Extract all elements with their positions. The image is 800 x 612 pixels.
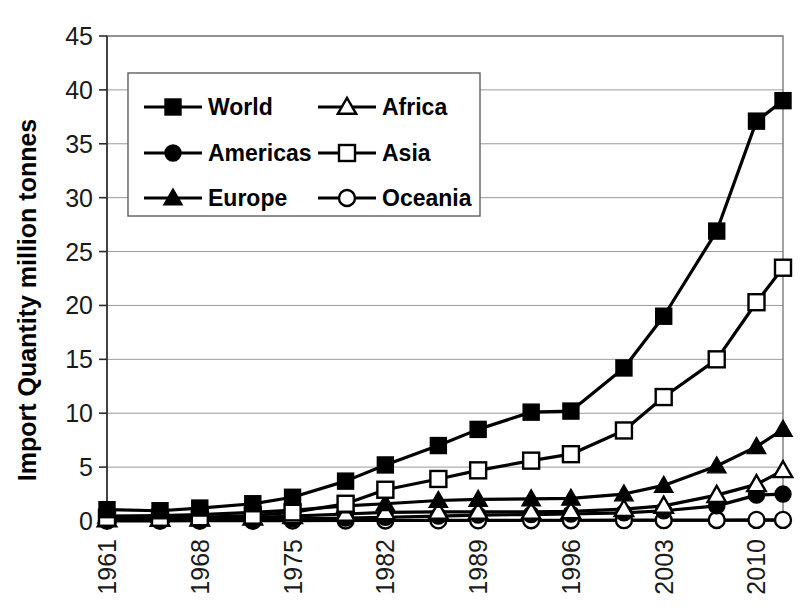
marker-world bbox=[192, 500, 208, 516]
marker-asia bbox=[563, 446, 579, 462]
marker-world bbox=[245, 496, 261, 512]
marker-world bbox=[470, 421, 486, 437]
legend-marker-world bbox=[165, 99, 181, 115]
x-tick-label: 1968 bbox=[186, 539, 214, 595]
marker-oceania bbox=[775, 512, 791, 528]
marker-world bbox=[338, 473, 354, 489]
legend-label-africa: Africa bbox=[382, 94, 447, 120]
chart-container: 051015202530354045 196119681975198219891… bbox=[0, 0, 800, 612]
legend-label-europe: Europe bbox=[208, 185, 287, 211]
x-tick-label: 1996 bbox=[557, 539, 585, 595]
marker-world bbox=[775, 93, 791, 109]
x-tick-label: 1961 bbox=[93, 539, 121, 595]
y-tick-label: 40 bbox=[65, 76, 93, 104]
marker-world bbox=[616, 360, 632, 376]
legend-label-world: World bbox=[208, 94, 273, 120]
x-tick-label: 1982 bbox=[371, 539, 399, 595]
y-tick-label: 30 bbox=[65, 184, 93, 212]
y-tick-label: 15 bbox=[65, 345, 93, 373]
marker-world bbox=[430, 438, 446, 454]
marker-world bbox=[377, 457, 393, 473]
marker-asia bbox=[523, 453, 539, 469]
marker-world bbox=[152, 503, 168, 519]
legend-marker-americas bbox=[165, 145, 181, 161]
marker-world bbox=[285, 489, 301, 505]
y-tick-label: 35 bbox=[65, 130, 93, 158]
y-tick-label: 20 bbox=[65, 291, 93, 319]
marker-world bbox=[656, 308, 672, 324]
marker-world bbox=[563, 403, 579, 419]
y-tick-label: 45 bbox=[65, 22, 93, 50]
x-tick-label: 1989 bbox=[464, 539, 492, 595]
marker-world bbox=[748, 113, 764, 129]
marker-asia bbox=[775, 260, 791, 276]
marker-asia bbox=[656, 389, 672, 405]
x-tick-label: 1975 bbox=[279, 539, 307, 595]
marker-asia bbox=[709, 351, 725, 367]
marker-asia bbox=[748, 294, 764, 310]
marker-asia bbox=[430, 471, 446, 487]
y-tick-label: 10 bbox=[65, 399, 93, 427]
marker-asia bbox=[377, 482, 393, 498]
marker-oceania bbox=[748, 512, 764, 528]
line-chart: 051015202530354045 196119681975198219891… bbox=[0, 0, 800, 612]
y-axis-label: Import Quantity million tonnes bbox=[13, 119, 41, 482]
marker-world bbox=[709, 223, 725, 239]
legend-label-americas: Americas bbox=[208, 140, 312, 166]
marker-asia bbox=[285, 504, 301, 520]
marker-asia bbox=[470, 462, 486, 478]
x-tick-label: 2010 bbox=[742, 539, 770, 595]
marker-world bbox=[523, 404, 539, 420]
marker-asia bbox=[616, 422, 632, 438]
marker-americas bbox=[775, 486, 791, 502]
y-tick-label: 25 bbox=[65, 238, 93, 266]
y-tick-label: 5 bbox=[79, 453, 93, 481]
marker-world bbox=[99, 502, 115, 518]
legend-label-asia: Asia bbox=[382, 140, 431, 166]
y-tick-label: 0 bbox=[79, 507, 93, 535]
legend-marker-asia bbox=[339, 145, 355, 161]
legend-label-oceania: Oceania bbox=[382, 185, 472, 211]
marker-asia bbox=[338, 496, 354, 512]
legend-marker-oceania bbox=[339, 190, 355, 206]
chart-legend: WorldAfricaAmericasAsiaEuropeOceania bbox=[128, 73, 480, 216]
x-tick-label: 2003 bbox=[650, 539, 678, 595]
